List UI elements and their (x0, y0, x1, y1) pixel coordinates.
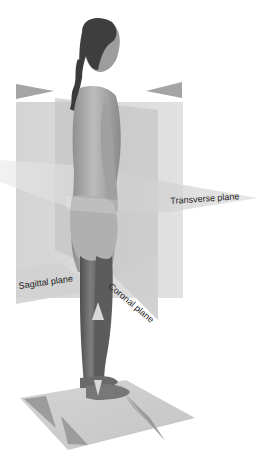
sagittal-arrow-right (146, 82, 182, 98)
leg-front (94, 256, 113, 388)
anatomical-planes-diagram: Transverse plane Sagittal plane Coronal … (0, 0, 262, 464)
sagittal-arrow-left (16, 84, 54, 99)
diagram-canvas (0, 0, 262, 464)
